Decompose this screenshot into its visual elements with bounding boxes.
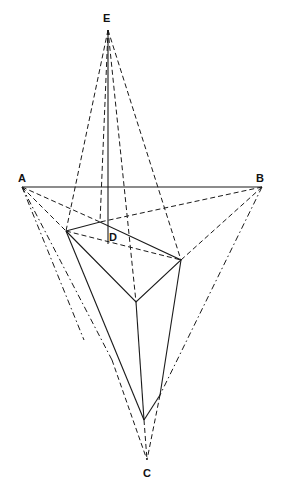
label-e: E — [103, 12, 110, 24]
rays-from-b — [100, 187, 262, 260]
prism — [66, 222, 181, 420]
label-c: C — [143, 467, 151, 479]
label-b: B — [256, 172, 264, 184]
label-a: A — [18, 172, 26, 184]
perspective-diagram: E A B D C — [0, 0, 281, 487]
label-d: D — [109, 231, 117, 243]
rays-to-c — [22, 187, 262, 460]
rays-from-e — [66, 30, 181, 302]
